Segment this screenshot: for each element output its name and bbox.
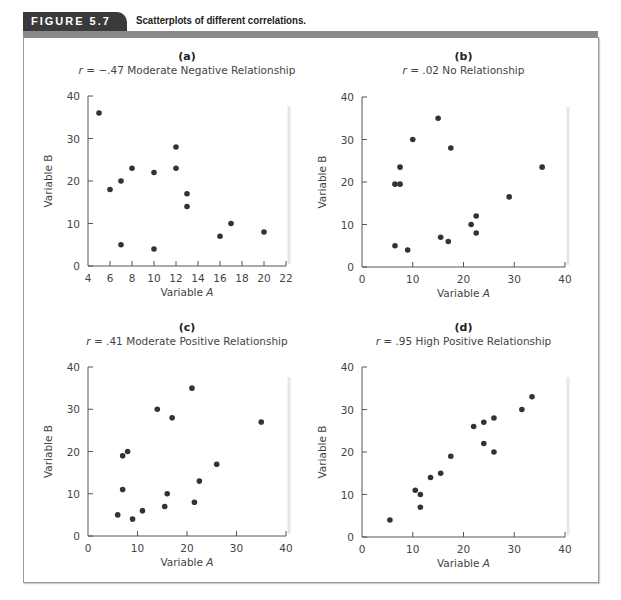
- data-point: [473, 213, 479, 219]
- panel-label: (c): [179, 321, 196, 334]
- x-tick-label: 20: [257, 272, 270, 284]
- data-point: [120, 453, 126, 459]
- data-point: [192, 499, 198, 505]
- data-point: [184, 191, 190, 197]
- y-tick-label: 10: [341, 219, 354, 231]
- data-point: [140, 508, 146, 514]
- data-point: [445, 239, 451, 245]
- y-tick-label: 10: [341, 489, 354, 501]
- x-axis-label: Variable A: [160, 286, 213, 298]
- data-point: [435, 115, 441, 121]
- x-tick-label: 10: [147, 272, 160, 284]
- data-point: [519, 407, 525, 413]
- data-point: [471, 424, 477, 430]
- panel-title: r = .41 Moderate Positive Relationship: [86, 335, 288, 347]
- data-point: [130, 516, 136, 522]
- data-point: [258, 419, 264, 425]
- x-tick-label: 0: [359, 273, 366, 285]
- data-point: [481, 441, 487, 447]
- data-point: [418, 492, 424, 498]
- y-tick-label: 30: [341, 404, 354, 416]
- x-tick-label: 22: [279, 272, 292, 284]
- data-point: [261, 229, 267, 235]
- y-tick-label: 40: [341, 91, 354, 103]
- data-point: [173, 144, 179, 150]
- data-point: [392, 181, 398, 187]
- y-tick-label: 10: [67, 218, 80, 230]
- y-tick-label: 20: [67, 446, 80, 458]
- x-tick-label: 8: [129, 272, 136, 284]
- x-tick-label: 30: [230, 542, 243, 554]
- data-point: [428, 475, 434, 481]
- y-axis-label: Variable B: [316, 155, 328, 208]
- data-point: [151, 246, 157, 252]
- data-point: [418, 504, 424, 510]
- y-axis-label: Variable B: [316, 425, 328, 478]
- x-tick-label: 10: [406, 543, 419, 555]
- panel-label: (b): [455, 50, 473, 63]
- data-point: [169, 415, 175, 421]
- data-point: [438, 470, 444, 476]
- data-point: [115, 512, 121, 518]
- x-axis-label: Variable A: [437, 287, 490, 299]
- y-tick-label: 0: [347, 261, 354, 273]
- data-point: [96, 110, 102, 116]
- data-point: [392, 243, 398, 249]
- x-tick-label: 20: [457, 273, 470, 285]
- y-tick-label: 40: [67, 90, 80, 102]
- scatterplot-grid: (a)r = −.47 Moderate Negative Relationsh…: [0, 0, 621, 600]
- data-point: [468, 222, 474, 228]
- x-tick-label: 30: [508, 543, 521, 555]
- panel-title: r = −.47 Moderate Negative Relationship: [79, 64, 296, 76]
- data-point: [491, 449, 497, 455]
- data-point: [129, 165, 135, 171]
- y-tick-label: 40: [67, 361, 80, 373]
- y-tick-label: 0: [73, 260, 80, 272]
- data-point: [410, 137, 416, 143]
- data-point: [405, 247, 411, 253]
- x-tick-label: 40: [558, 273, 571, 285]
- data-point: [197, 478, 203, 484]
- data-point: [397, 164, 403, 170]
- data-point: [164, 491, 170, 497]
- data-point: [118, 178, 124, 184]
- x-tick-label: 12: [169, 272, 182, 284]
- x-tick-label: 6: [107, 272, 114, 284]
- y-tick-label: 20: [341, 446, 354, 458]
- x-tick-label: 16: [213, 272, 227, 284]
- y-axis-label: Variable B: [42, 154, 54, 207]
- y-tick-label: 10: [67, 488, 80, 500]
- x-axis-label: Variable A: [437, 557, 490, 569]
- x-tick-label: 40: [558, 543, 571, 555]
- data-point: [412, 487, 418, 493]
- data-point: [151, 170, 157, 176]
- x-tick-label: 40: [279, 542, 292, 554]
- data-point: [481, 419, 487, 425]
- y-tick-label: 30: [67, 403, 80, 415]
- data-point: [387, 517, 393, 523]
- data-point: [120, 487, 126, 493]
- x-tick-label: 20: [180, 542, 193, 554]
- x-tick-label: 0: [359, 543, 366, 555]
- data-point: [173, 165, 179, 171]
- data-point: [529, 394, 535, 400]
- data-point: [155, 406, 161, 412]
- data-point: [162, 504, 168, 510]
- panel-title: r = .02 No Relationship: [403, 64, 525, 76]
- data-point: [448, 453, 454, 459]
- x-tick-label: 10: [406, 273, 419, 285]
- x-tick-label: 30: [508, 273, 521, 285]
- data-point: [228, 221, 234, 227]
- x-tick-label: 18: [235, 272, 248, 284]
- scatterplot-b: (b)r = .02 No Relationship01020304001020…: [316, 50, 572, 299]
- scatterplot-a: (a)r = −.47 Moderate Negative Relationsh…: [42, 50, 296, 298]
- panel-title: r = .95 High Positive Relationship: [376, 335, 552, 347]
- data-point: [118, 242, 124, 248]
- data-point: [214, 461, 220, 467]
- panel-label: (d): [455, 321, 473, 334]
- data-point: [539, 164, 545, 170]
- data-point: [397, 181, 403, 187]
- data-point: [448, 145, 454, 151]
- data-point: [217, 233, 223, 239]
- x-tick-label: 4: [85, 272, 92, 284]
